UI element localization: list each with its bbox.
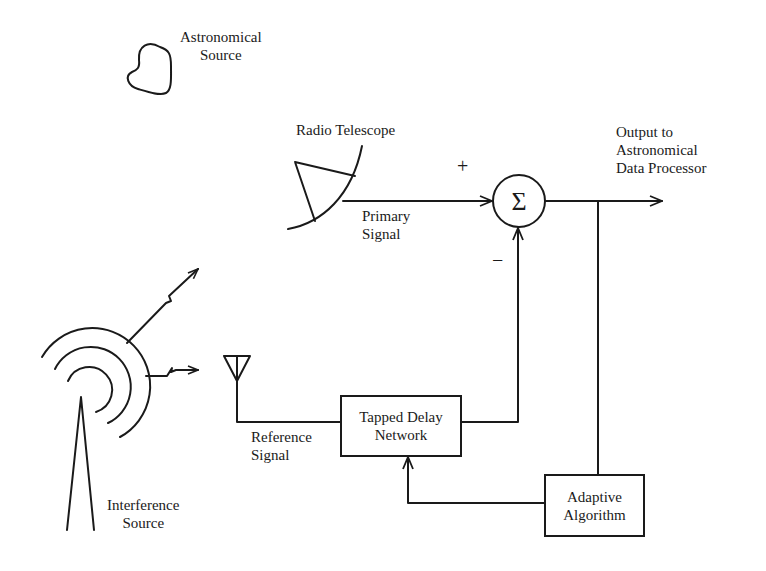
- box-label-line: Network: [375, 426, 428, 444]
- lightning-to-telescope-icon: [127, 269, 198, 343]
- box-label-line: Adaptive: [567, 488, 622, 506]
- weight-update-line: [408, 457, 545, 503]
- output-label: Output to Astronomical Data Processor: [616, 123, 706, 177]
- reference-signal-line: [237, 381, 341, 422]
- label-line: Output to: [616, 123, 706, 141]
- lightning-to-antenna-icon: [146, 368, 198, 376]
- radio-telescope-label: Radio Telescope: [296, 121, 395, 139]
- reference-signal-label: Reference Signal: [251, 428, 312, 464]
- minus-sign: −: [492, 250, 503, 270]
- label-line: Interference: [107, 496, 179, 514]
- box-label-line: Tapped Delay: [359, 408, 443, 426]
- plus-sign: +: [457, 156, 468, 176]
- label-line: Source: [107, 514, 179, 532]
- astronomical-source-label: Astronomical Source: [180, 28, 262, 64]
- radio-telescope-icon: [288, 146, 362, 229]
- label-line: Source: [180, 46, 262, 64]
- tapped-delay-network-box: Tapped Delay Network: [340, 395, 462, 457]
- label-line: Data Processor: [616, 159, 706, 177]
- label-line: Astronomical: [616, 141, 706, 159]
- diagram-canvas: Σ: [0, 0, 766, 571]
- primary-signal-label: Primary Signal: [362, 207, 410, 243]
- adaptive-algorithm-box: Adaptive Algorithm: [544, 474, 645, 537]
- summer-symbol: Σ: [511, 187, 526, 216]
- label-line: Signal: [251, 446, 312, 464]
- label-line: Reference: [251, 428, 312, 446]
- astronomical-source-icon: [128, 44, 171, 94]
- interference-source-label: Interference Source: [107, 496, 179, 532]
- label-line: Primary: [362, 207, 410, 225]
- delay-output-line: [461, 228, 518, 422]
- reference-antenna-icon: [224, 356, 250, 381]
- label-line: Astronomical: [180, 28, 262, 46]
- label-line: Signal: [362, 225, 410, 243]
- box-label-line: Algorithm: [563, 506, 626, 524]
